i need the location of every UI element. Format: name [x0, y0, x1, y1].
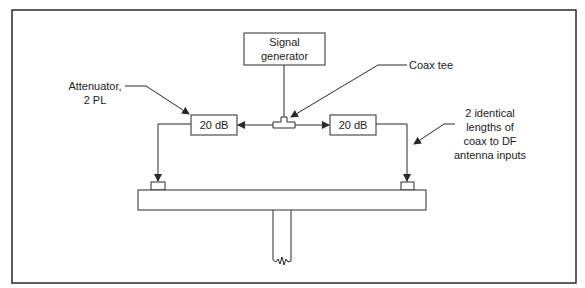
antenna-input-right — [401, 182, 414, 190]
coax-lengths-callout: 2 identical lengths of coax to DF antenn… — [450, 106, 530, 162]
antenna-input-left — [151, 182, 165, 190]
attenuator-callout-line2: 2 PL — [62, 93, 128, 107]
coax-lengths-line4: antenna inputs — [450, 148, 530, 162]
coax-lengths-line3: coax to DF — [450, 134, 530, 148]
attenuator-left-label: 20 dB — [191, 118, 237, 132]
coax-tee-callout: Coax tee — [409, 58, 453, 72]
signal-generator-line2: generator — [244, 49, 325, 63]
signal-generator-line1: Signal — [244, 35, 325, 49]
antenna-boom — [138, 190, 426, 210]
attenuator-callout: Attenuator, 2 PL — [62, 79, 128, 107]
coax-lengths-line2: lengths of — [450, 120, 530, 134]
antenna-mast — [273, 210, 291, 265]
coax-right-path — [376, 124, 407, 181]
coax-lengths-line1: 2 identical — [450, 106, 530, 120]
coax-tee-callout-leader — [291, 65, 407, 117]
coax-tee-icon — [273, 117, 295, 128]
attenuator-callout-leader — [125, 86, 189, 114]
signal-generator-label: Signal generator — [244, 35, 325, 63]
attenuator-right-label: 20 dB — [330, 118, 376, 132]
coax-lengths-callout-leader — [414, 124, 455, 144]
attenuator-callout-line1: Attenuator, — [62, 79, 128, 93]
coax-left-path — [158, 124, 191, 181]
